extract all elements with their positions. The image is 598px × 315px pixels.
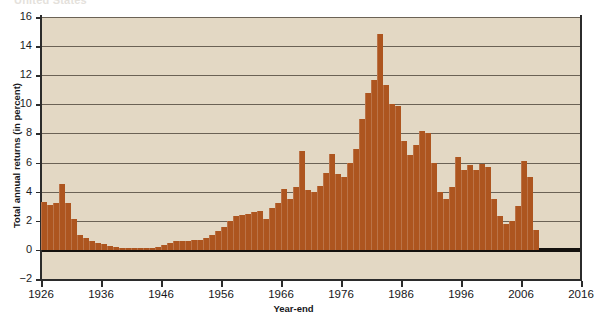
bar-1976 <box>341 177 346 250</box>
bar-1951 <box>191 240 196 249</box>
bar-1942 <box>137 248 142 249</box>
bar-1962 <box>257 211 262 250</box>
x-axis-title: Year-end <box>0 303 587 314</box>
bar-1948 <box>173 241 178 250</box>
bar-1999 <box>479 164 484 250</box>
x-tick-label-1936: 1936 <box>79 288 123 300</box>
bar-1955 <box>215 231 220 250</box>
bar-1995 <box>455 157 460 250</box>
bar-2008 <box>533 230 538 250</box>
x-tick-mark-1936 <box>101 281 103 287</box>
x-tick-mark-1996 <box>461 281 463 287</box>
bar-1985 <box>395 106 400 250</box>
y-tick-label--2: −2 <box>2 272 32 284</box>
x-tick-mark-2006 <box>521 281 523 287</box>
bar-1969 <box>299 151 304 250</box>
bar-1927 <box>47 205 52 250</box>
bar-1973 <box>323 173 328 250</box>
bar-1957 <box>227 221 232 250</box>
bar-1968 <box>293 187 298 250</box>
x-tick-mark-1946 <box>161 281 163 287</box>
bar-1996 <box>461 170 466 250</box>
bar-1940 <box>125 248 130 249</box>
bar-1935 <box>95 243 100 250</box>
bar-2002 <box>497 216 502 249</box>
bar-1932 <box>77 235 82 250</box>
bar-1991 <box>431 163 436 250</box>
bar-1936 <box>101 244 106 250</box>
y-tick-label-8: 8 <box>2 126 32 138</box>
y-tick-label-12: 12 <box>2 68 32 80</box>
bar-1997 <box>467 165 472 249</box>
bar-1953 <box>203 238 208 250</box>
bar-2005 <box>515 206 520 250</box>
bar-1954 <box>209 235 214 250</box>
bar-1977 <box>347 163 352 250</box>
bar-1943 <box>143 248 148 249</box>
bar-2003 <box>503 224 508 250</box>
y-tick-mark-4 <box>36 192 41 194</box>
bar-1967 <box>287 199 292 250</box>
bar-1964 <box>269 208 274 250</box>
x-axis-spine <box>41 279 582 281</box>
bar-2000 <box>485 167 490 250</box>
x-tick-label-2006: 2006 <box>499 288 543 300</box>
y-tick-label-6: 6 <box>2 156 32 168</box>
y-tick-mark-8 <box>36 133 41 135</box>
bar-1990 <box>425 133 430 249</box>
clipped-heading: United States <box>14 0 87 6</box>
bar-1988 <box>413 145 418 250</box>
bar-1972 <box>317 186 322 250</box>
bar-1933 <box>83 238 88 250</box>
bar-1989 <box>419 131 424 250</box>
bar-2006 <box>521 161 526 250</box>
bar-1998 <box>473 170 478 250</box>
bar-1986 <box>401 141 406 250</box>
x-tick-label-1966: 1966 <box>259 288 303 300</box>
bar-1979 <box>359 119 364 250</box>
bars-layer <box>41 17 581 279</box>
x-tick-mark-1976 <box>341 281 343 287</box>
bar-1950 <box>185 241 190 250</box>
bar-1949 <box>179 241 184 250</box>
bar-1975 <box>335 174 340 250</box>
x-tick-label-1986: 1986 <box>379 288 423 300</box>
bar-1961 <box>251 212 256 250</box>
y-tick-label-14: 14 <box>2 39 32 51</box>
y-tick-label-2: 2 <box>2 214 32 226</box>
bar-1958 <box>233 216 238 249</box>
bar-1982 <box>377 34 382 249</box>
bar-2001 <box>491 199 496 250</box>
x-tick-mark-1956 <box>221 281 223 287</box>
y-tick-label-16: 16 <box>2 10 32 22</box>
bar-1963 <box>263 219 268 250</box>
bar-1965 <box>275 203 280 250</box>
bar-1978 <box>353 149 358 249</box>
y-tick-label-4: 4 <box>2 185 32 197</box>
bar-1941 <box>131 248 136 249</box>
y-tick-mark-14 <box>36 46 41 48</box>
bar-1993 <box>443 199 448 250</box>
bar-1930 <box>65 203 70 250</box>
bar-1980 <box>365 93 370 250</box>
x-tick-label-2016: 2016 <box>559 288 598 300</box>
x-tick-label-1926: 1926 <box>19 288 63 300</box>
bar-1960 <box>245 214 250 250</box>
bar-1966 <box>281 189 286 250</box>
bar-1956 <box>221 227 226 250</box>
x-tick-mark-1986 <box>401 281 403 287</box>
y-tick-mark-6 <box>36 163 41 165</box>
y-tick-label-0: 0 <box>2 243 32 255</box>
bar-1947 <box>167 243 172 250</box>
bar-1934 <box>89 241 94 250</box>
bar-1974 <box>329 154 334 250</box>
bar-1983 <box>383 85 388 249</box>
y-tick-label-10: 10 <box>2 97 32 109</box>
bar-1970 <box>305 190 310 250</box>
bar-1984 <box>389 104 394 250</box>
bar-1952 <box>197 240 202 250</box>
bar-1971 <box>311 192 316 250</box>
bar-2007 <box>527 177 532 250</box>
x-tick-mark-1966 <box>281 281 283 287</box>
